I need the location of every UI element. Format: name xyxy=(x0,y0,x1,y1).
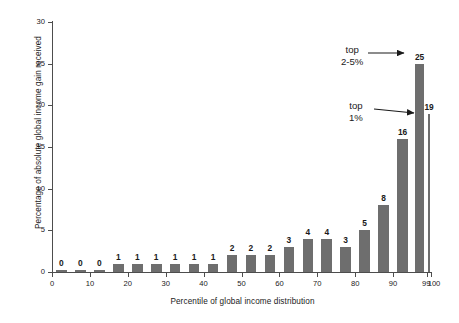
annotation-top-2-5-line1: top xyxy=(341,44,363,56)
bar-value-label: 16 xyxy=(398,127,407,137)
bar: 3 xyxy=(284,247,295,272)
bar: 25 xyxy=(415,64,423,272)
y-tick-label: 5 xyxy=(41,225,45,234)
x-tick-label: 10 xyxy=(76,279,104,288)
bar: 1 xyxy=(151,264,162,272)
x-tick-mark xyxy=(52,273,53,277)
bar-value-label: 1 xyxy=(116,252,121,262)
x-tick-mark xyxy=(431,273,432,277)
bar-value-label: 3 xyxy=(287,235,292,245)
bar-value-label: 0 xyxy=(78,258,83,268)
bar-value-label: 2 xyxy=(230,243,235,253)
x-tick-mark xyxy=(242,273,243,277)
x-tick-label: 20 xyxy=(114,279,142,288)
x-tick-label: 60 xyxy=(265,279,293,288)
x-tick-label: 0 xyxy=(38,279,66,288)
bar-value-label: 1 xyxy=(173,252,178,262)
bar: 0 xyxy=(94,270,105,272)
bar: 2 xyxy=(227,255,238,272)
bar-value-label: 19 xyxy=(424,102,433,112)
x-tick-label: 90 xyxy=(379,279,407,288)
annotation-top-2-5-line2: 2-5% xyxy=(341,56,363,68)
x-tick-mark xyxy=(355,273,356,277)
bar: 19 xyxy=(428,114,430,272)
bar: 4 xyxy=(321,239,332,272)
x-tick-label: 80 xyxy=(341,279,369,288)
annotation-top-1-line2: 1% xyxy=(349,112,363,124)
y-tick-label: 15 xyxy=(37,142,45,151)
bar-value-label: 0 xyxy=(97,258,102,268)
bar: 0 xyxy=(56,270,67,272)
x-tick-label: 40 xyxy=(190,279,218,288)
x-tick-mark xyxy=(393,273,394,277)
y-tick-label: 20 xyxy=(37,100,45,109)
bar: 5 xyxy=(359,230,370,272)
bar: 8 xyxy=(378,205,389,272)
annotation-top-2-5: top 2-5% xyxy=(341,44,363,67)
y-tick-label: 30 xyxy=(37,17,45,26)
x-tick-mark xyxy=(279,273,280,277)
bar-value-label: 2 xyxy=(249,243,254,253)
plot-area: 051015202530 010203040506070809099100 00… xyxy=(52,22,431,272)
bars-layer: 000111111222344358162519 xyxy=(52,22,431,272)
bar: 1 xyxy=(189,264,200,272)
bar-value-label: 25 xyxy=(415,52,424,62)
annotation-top-1: top 1% xyxy=(349,100,363,123)
x-tick-mark xyxy=(427,273,428,277)
bar-value-label: 1 xyxy=(154,252,159,262)
y-tick-label: 10 xyxy=(37,184,45,193)
bar-value-label: 2 xyxy=(268,243,273,253)
bar: 4 xyxy=(303,239,314,272)
y-axis-title: Percentage of absolute global income gai… xyxy=(34,3,43,263)
x-tick-mark xyxy=(90,273,91,277)
x-tick-label: 70 xyxy=(303,279,331,288)
bar: 16 xyxy=(397,139,408,272)
bar-value-label: 5 xyxy=(362,218,367,228)
bar-value-label: 1 xyxy=(135,252,140,262)
annotation-top-1-line1: top xyxy=(349,100,363,112)
x-tick-mark xyxy=(166,273,167,277)
bar-value-label: 0 xyxy=(59,258,64,268)
bar-value-label: 4 xyxy=(324,227,329,237)
x-tick-mark xyxy=(317,273,318,277)
bar-value-label: 3 xyxy=(343,235,348,245)
x-tick-mark xyxy=(204,273,205,277)
bar: 2 xyxy=(265,255,276,272)
x-axis-title: Percentile of global income distribution xyxy=(50,297,435,306)
y-tick-label: 25 xyxy=(37,59,45,68)
y-tick-label: 0 xyxy=(41,267,45,276)
bar-value-label: 1 xyxy=(192,252,197,262)
x-tick-label: 30 xyxy=(152,279,180,288)
x-tick-label: 50 xyxy=(228,279,256,288)
x-tick-label: 100 xyxy=(420,279,448,288)
x-tick-mark xyxy=(128,273,129,277)
bar: 2 xyxy=(246,255,257,272)
bar-value-label: 1 xyxy=(211,252,216,262)
bar: 1 xyxy=(113,264,124,272)
bar: 3 xyxy=(340,247,351,272)
bar: 1 xyxy=(170,264,181,272)
bar: 1 xyxy=(132,264,143,272)
bar-value-label: 8 xyxy=(381,193,386,203)
bar: 0 xyxy=(75,270,86,272)
bar-value-label: 4 xyxy=(305,227,310,237)
bar-chart: Percentage of absolute global income gai… xyxy=(0,0,459,323)
bar: 1 xyxy=(208,264,219,272)
